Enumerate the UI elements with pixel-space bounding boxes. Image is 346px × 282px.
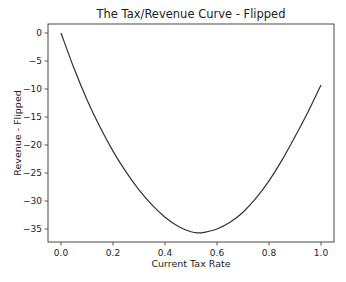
y-tick-label: −35 (23, 224, 42, 234)
y-tick-label: −10 (23, 84, 42, 94)
y-axis-label: Revenue - Flipped (12, 90, 23, 176)
tax-revenue-chart: The Tax/Revenue Curve - Flipped 0.00.20.… (0, 0, 346, 282)
x-tick-label: 0.8 (262, 248, 277, 258)
x-axis-ticks: 0.00.20.40.60.81.0 (54, 242, 329, 258)
x-axis-label: Current Tax Rate (151, 258, 230, 269)
chart-title: The Tax/Revenue Curve - Flipped (96, 7, 286, 21)
plot-area (48, 24, 334, 242)
x-tick-label: 0.2 (106, 248, 120, 258)
x-tick-label: 0.6 (210, 248, 225, 258)
y-tick-label: −5 (29, 56, 42, 66)
y-tick-label: 0 (36, 28, 42, 38)
y-tick-label: −25 (23, 168, 42, 178)
x-tick-label: 0.4 (158, 248, 173, 258)
y-tick-label: −15 (23, 112, 42, 122)
y-axis-ticks: 0−5−10−15−20−25−30−35 (23, 28, 48, 234)
y-tick-label: −30 (23, 196, 42, 206)
x-tick-label: 0.0 (54, 248, 69, 258)
y-tick-label: −20 (23, 140, 42, 150)
plot-frame (48, 24, 334, 242)
x-tick-label: 1.0 (314, 248, 329, 258)
